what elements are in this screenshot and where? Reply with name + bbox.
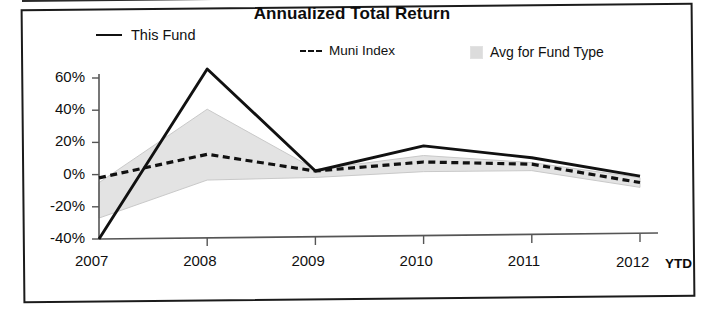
y-axis-tick-label: 40%	[23, 100, 85, 117]
y-axis-tick-label: 60%	[23, 68, 85, 85]
x-axis-tick-label: 2011	[508, 252, 540, 269]
chart-card: Annualized Total Return This Fund Muni I…	[0, 0, 704, 315]
y-axis-tick-label: -20%	[23, 197, 85, 214]
y-axis-tick-label: 20%	[23, 132, 85, 149]
y-axis-tick-label: -40%	[23, 229, 85, 246]
x-axis-tick-label: 2009	[291, 252, 324, 269]
y-axis-tick-label: 0%	[23, 165, 85, 182]
x-axis-note: YTD	[665, 256, 692, 271]
x-axis-tick-label: 2008	[183, 252, 216, 269]
x-axis-tick-label: 2010	[400, 252, 433, 269]
x-axis-tick-label: 2007	[75, 252, 108, 269]
x-axis-tick-label: 2012	[616, 253, 649, 270]
